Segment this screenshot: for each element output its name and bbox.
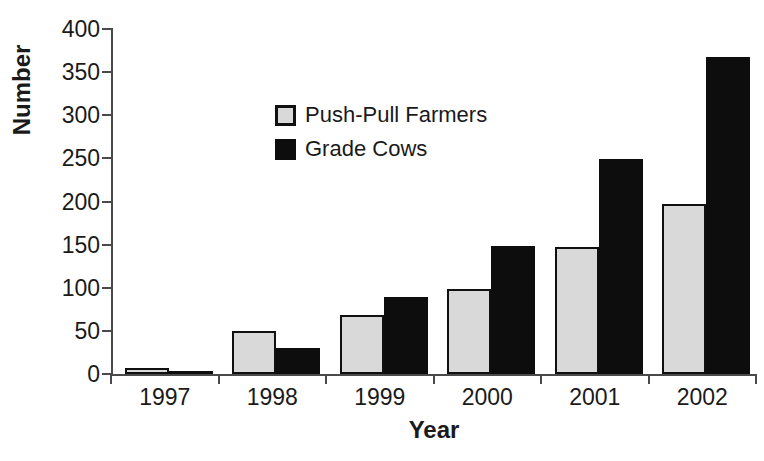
bar-2000-push-pull-farmers: [447, 289, 491, 374]
bar-chart-figure: Number 050100150200250300350400 Year Pus…: [0, 0, 764, 461]
x-axis-title: Year: [111, 416, 757, 444]
bar-2002-grade-cows: [706, 57, 750, 374]
y-axis-tick-mark: [102, 157, 111, 159]
y-axis-tick-label: 150: [42, 233, 100, 256]
y-axis-tick-mark: [102, 28, 111, 30]
y-axis-title: Number: [2, 0, 42, 180]
bar-1998-grade-cows: [276, 348, 320, 374]
x-axis-tick-label: 2002: [677, 386, 728, 409]
y-axis-tick-label: 400: [42, 18, 100, 41]
bar-2001-grade-cows: [599, 159, 643, 374]
x-axis-tick-label: 1997: [139, 386, 190, 409]
y-axis-tick-mark: [102, 244, 111, 246]
y-axis-tick-label: 0: [42, 363, 100, 386]
y-axis-tick-label: 250: [42, 147, 100, 170]
x-axis-tick-mark: [433, 375, 435, 384]
legend-swatch-icon: [275, 105, 296, 126]
x-axis-tick-label: 2000: [462, 386, 513, 409]
y-axis-tick-label: 300: [42, 104, 100, 127]
x-axis-tick-mark: [648, 375, 650, 384]
bar-2002-push-pull-farmers: [662, 204, 706, 374]
legend-item-push-pull-farmers: Push-Pull Farmers: [275, 98, 487, 132]
y-axis-tick-label: 100: [42, 276, 100, 299]
bar-1997-grade-cows: [169, 371, 213, 374]
y-axis-tick-mark: [102, 287, 111, 289]
bar-1997-push-pull-farmers: [125, 368, 169, 374]
x-axis-tick-mark: [540, 375, 542, 384]
y-axis-tick-mark: [102, 114, 111, 116]
y-axis-tick-label: 200: [42, 190, 100, 213]
chart-legend: Push-Pull FarmersGrade Cows: [275, 98, 487, 166]
y-axis-tick-labels: 050100150200250300350400: [42, 0, 100, 461]
x-axis-tick-mark: [325, 375, 327, 384]
x-axis-tick-label: 1998: [247, 386, 298, 409]
legend-label: Grade Cows: [305, 138, 427, 160]
y-axis-tick-label: 50: [42, 319, 100, 342]
y-axis-tick-mark: [102, 201, 111, 203]
x-axis-tick-label: 2001: [569, 386, 620, 409]
legend-swatch-icon: [275, 139, 296, 160]
y-axis-tick-mark: [102, 71, 111, 73]
bar-2000-grade-cows: [491, 246, 535, 375]
x-axis-tick-mark: [218, 375, 220, 384]
legend-label: Push-Pull Farmers: [305, 104, 487, 126]
plot-area: [111, 29, 756, 374]
x-axis-tick-mark: [110, 375, 112, 384]
bar-1999-grade-cows: [384, 297, 428, 374]
legend-item-grade-cows: Grade Cows: [275, 132, 487, 166]
y-axis-tick-label: 350: [42, 61, 100, 84]
y-axis-tick-mark: [102, 330, 111, 332]
x-axis-tick-label: 1999: [354, 386, 405, 409]
bar-1998-push-pull-farmers: [232, 331, 276, 374]
bar-1999-push-pull-farmers: [340, 315, 384, 375]
bar-2001-push-pull-farmers: [555, 247, 599, 374]
x-axis-tick-mark: [755, 375, 757, 384]
